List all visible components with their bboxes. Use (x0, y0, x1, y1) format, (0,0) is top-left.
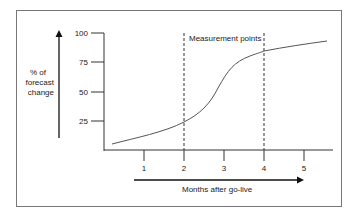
chart-canvas: % of forecast change 100 75 50 25 1 2 3 … (0, 0, 358, 216)
y-tick-label-75: 75 (79, 58, 88, 67)
y-axis-label-line3: change (28, 88, 55, 97)
y-tick-label-25: 25 (79, 117, 88, 126)
x-tick-label-3: 3 (222, 164, 227, 173)
x-tick-label-5: 5 (302, 164, 307, 173)
y-axis-label-line1: % of (30, 68, 47, 77)
forecast-change-curve (112, 41, 327, 144)
x-tick-label-4: 4 (262, 164, 267, 173)
y-tick-label-100: 100 (75, 29, 89, 38)
panel-border (17, 11, 342, 207)
measurement-points-label: Measurement points (189, 34, 261, 43)
x-tick-label-1: 1 (142, 164, 147, 173)
x-tick-label-2: 2 (182, 164, 187, 173)
y-tick-label-50: 50 (79, 88, 88, 97)
y-axis-label-line2: forecast (26, 78, 55, 87)
x-arrow-head-icon (297, 177, 304, 184)
y-arrow-head-icon (56, 30, 63, 37)
x-axis-label: Months after go-live (182, 185, 253, 194)
